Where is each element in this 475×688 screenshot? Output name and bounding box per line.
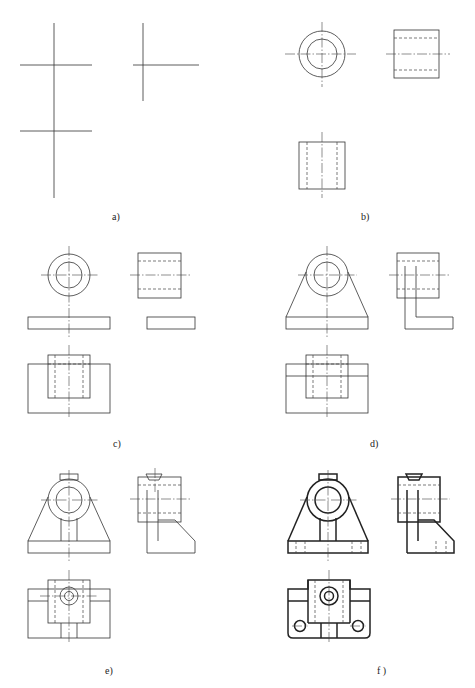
- panel-label-d: d): [370, 438, 378, 449]
- panel-f-drawing: [288, 470, 454, 643]
- panel-e-drawing: [28, 468, 195, 643]
- three-view-drawing-sequence: [0, 0, 475, 688]
- panel-label-a: a): [112, 211, 120, 222]
- panel-a-drawing: [20, 23, 199, 198]
- panel-d-drawing: [286, 246, 453, 418]
- panel-label-c: c): [113, 438, 121, 449]
- panel-label-b: b): [361, 211, 369, 222]
- panel-label-e: e): [105, 665, 113, 676]
- panel-c-drawing: [28, 246, 195, 418]
- panel-label-f: f ): [377, 665, 386, 676]
- panel-b-drawing: [285, 22, 450, 198]
